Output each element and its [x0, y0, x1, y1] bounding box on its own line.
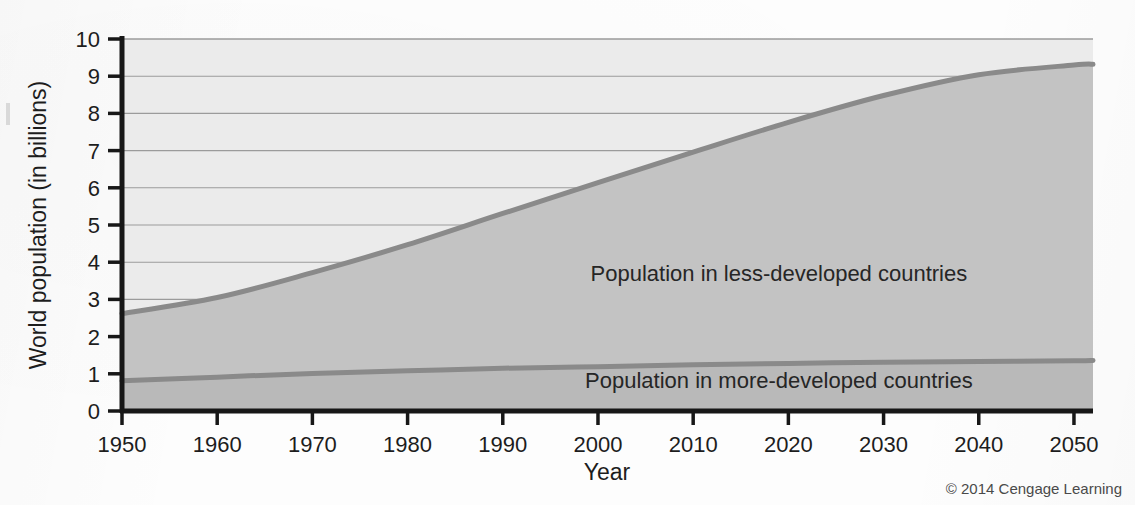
x-axis-tick-label: 2010 [669, 432, 718, 457]
x-axis-tick-label: 1970 [288, 432, 337, 457]
x-axis-tick-label: 2000 [574, 432, 623, 457]
y-axis-tick-label: 8 [88, 101, 100, 126]
x-axis-tick-label: 2030 [859, 432, 908, 457]
x-axis-tick-label: 1950 [98, 432, 147, 457]
x-axis-ticks: 1950196019701980199020002010202020302040… [98, 411, 1099, 457]
y-axis-tick-label: 6 [88, 176, 100, 201]
x-axis-tick-label: 2020 [764, 432, 813, 457]
y-axis-tick-label: 3 [88, 287, 100, 312]
x-axis-tick-label: 2040 [954, 432, 1003, 457]
y-axis-title: World population (in billions) [25, 81, 51, 370]
y-axis-tick-label: 2 [88, 325, 100, 350]
x-axis-tick-label: 2050 [1049, 432, 1098, 457]
figure-root: 012345678910 195019601970198019902000201… [0, 0, 1135, 505]
copyright-credit: © 2014 Cengage Learning [946, 480, 1122, 497]
series-label-more-developed: Population in more-developed countries [585, 368, 973, 393]
population-area-chart: 012345678910 195019601970198019902000201… [0, 0, 1135, 505]
x-axis-tick-label: 1990 [478, 432, 527, 457]
y-axis-tick-label: 9 [88, 64, 100, 89]
y-axis-ticks: 012345678910 [76, 27, 122, 424]
x-axis-title: Year [584, 459, 631, 485]
x-axis-tick-label: 1960 [193, 432, 242, 457]
x-axis-tick-label: 1980 [383, 432, 432, 457]
y-axis-tick-label: 1 [88, 362, 100, 387]
series-label-less-developed: Population in less-developed countries [591, 261, 968, 286]
y-axis-tick-label: 10 [76, 27, 100, 52]
y-axis-tick-label: 5 [88, 213, 100, 238]
y-axis-tick-label: 0 [88, 399, 100, 424]
y-axis-tick-label: 7 [88, 139, 100, 164]
y-axis-tick-label: 4 [88, 250, 100, 275]
